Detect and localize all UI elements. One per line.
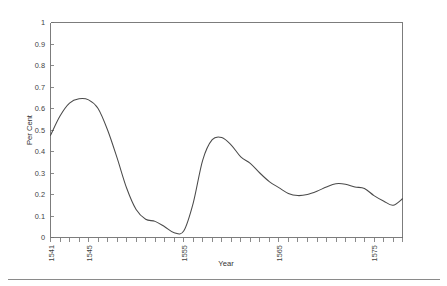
line-chart-canvas: 0 0.1 0.2 0.3 0.4 0.5 0.6 0.7 0.8 0.9 1 …	[0, 0, 447, 286]
y-tick-label-0.3: 0.3	[35, 169, 45, 178]
x-tick-label-1575: 1575	[370, 245, 379, 261]
y-tick-label-0.8: 0.8	[35, 61, 45, 70]
chart-figure: 0 0.1 0.2 0.3 0.4 0.5 0.6 0.7 0.8 0.9 1 …	[0, 0, 447, 286]
x-tick-label-1555: 1555	[180, 245, 189, 261]
plot-frame	[51, 23, 403, 238]
y-axis-title: Per Cent	[25, 114, 34, 145]
y-tick-label-0.6: 0.6	[35, 104, 45, 113]
x-tick-label-1545: 1545	[85, 245, 94, 261]
y-tick-label-0.5: 0.5	[35, 126, 45, 135]
data-series-line	[51, 99, 403, 235]
y-tick-labels: 0 0.1 0.2 0.3 0.4 0.5 0.6 0.7 0.8 0.9 1	[35, 18, 45, 242]
y-tick-label-0.7: 0.7	[35, 83, 45, 92]
x-tick-labels: 1541 1545 1555 1565 1575	[47, 245, 380, 261]
x-tick-label-1565: 1565	[275, 245, 284, 261]
x-axis-tick-marks	[51, 238, 403, 242]
y-axis: 0 0.1 0.2 0.3 0.4 0.5 0.6 0.7 0.8 0.9 1 …	[25, 18, 54, 242]
x-axis-title: Year	[218, 259, 234, 268]
y-tick-label-0: 0	[41, 233, 45, 242]
plot-border	[51, 23, 403, 238]
y-tick-label-0.1: 0.1	[35, 212, 45, 221]
x-tick-label-1541: 1541	[47, 245, 56, 261]
y-tick-label-1: 1	[41, 18, 45, 27]
y-tick-label-0.2: 0.2	[35, 190, 45, 199]
y-tick-label-0.9: 0.9	[35, 40, 45, 49]
y-tick-label-0.4: 0.4	[35, 147, 45, 156]
